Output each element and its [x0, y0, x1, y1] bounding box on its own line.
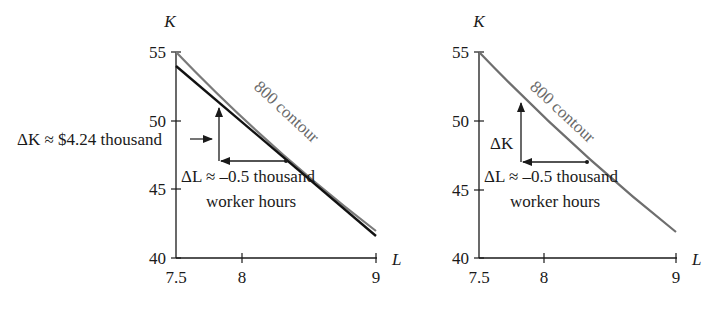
left-l-axis-label: L [391, 250, 401, 269]
right-y-tick-50: 50 [452, 112, 469, 131]
right-dk-label: ΔK [490, 134, 514, 153]
left-dl-label-2: worker hours [206, 192, 296, 211]
left-y-tick-50: 50 [149, 112, 166, 131]
right-contour-label: 800 contour [526, 77, 599, 147]
figure: 55 50 45 40 7.5 8 9 K L 800 contour ΔK ≈… [0, 0, 727, 314]
left-x-tick-9: 9 [372, 268, 381, 287]
left-dk-label: ΔK ≈ $4.24 thousand [17, 130, 162, 149]
left-k-axis-label: K [163, 12, 177, 31]
right-y-tick-55: 55 [452, 43, 469, 62]
left-x-tick-7-5: 7.5 [165, 268, 186, 287]
left-y-tick-40: 40 [149, 249, 166, 268]
left-y-tick-55: 55 [149, 43, 166, 62]
right-x-tick-7-5: 7.5 [468, 268, 489, 287]
left-y-tick-45: 45 [149, 180, 166, 199]
right-k-axis-label: K [472, 12, 486, 31]
right-y-tick-45: 45 [452, 181, 469, 200]
right-chart: 55 50 45 40 7.5 8 9 K L 800 contour ΔK Δ… [452, 12, 701, 287]
right-y-tick-40: 40 [452, 249, 469, 268]
left-chart: 55 50 45 40 7.5 8 9 K L 800 contour ΔK ≈… [17, 12, 401, 287]
left-tangent-point [284, 159, 288, 163]
left-dl-label: ΔL ≈ –0.5 thousand [181, 167, 315, 186]
left-x-tick-8: 8 [238, 268, 247, 287]
right-dl-label: ΔL ≈ –0.5 thousand [484, 167, 618, 186]
right-x-tick-9: 9 [672, 268, 681, 287]
right-l-axis-label: L [691, 250, 701, 269]
right-tangent-point [585, 160, 589, 164]
right-dl-label-2: worker hours [510, 192, 600, 211]
right-x-tick-8: 8 [540, 268, 549, 287]
